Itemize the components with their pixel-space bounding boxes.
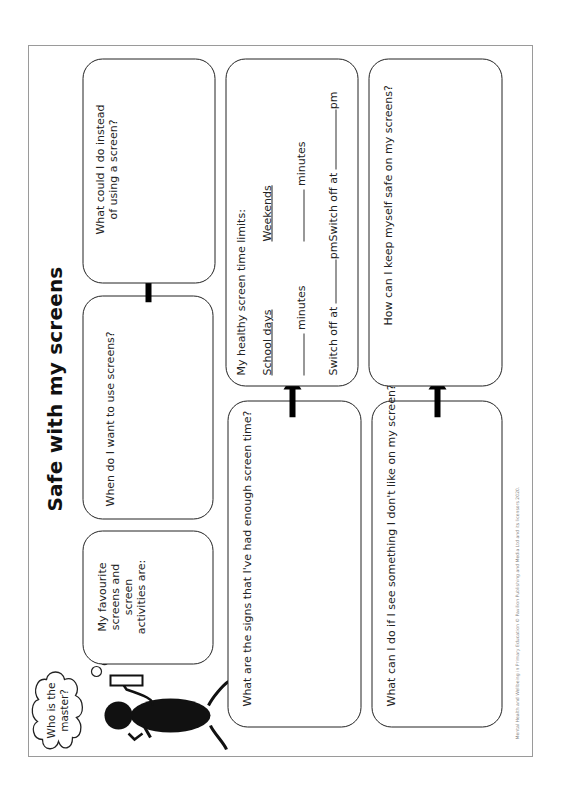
favourite-activities-box[interactable]: My favourite screens and screen activiti… bbox=[82, 530, 213, 664]
school-switch-off-label: Switch off at bbox=[326, 306, 339, 375]
school-switch-off-input[interactable] bbox=[335, 259, 336, 303]
school-minutes-label: minutes bbox=[294, 285, 307, 330]
signs-enough-box[interactable]: What are the signs that I've had enough … bbox=[227, 400, 361, 727]
thought-text-2: master? bbox=[57, 689, 69, 732]
instead-line-1: What could I do instead bbox=[93, 94, 106, 244]
see-something-question: What can I do if I see something I don't… bbox=[384, 384, 397, 706]
signs-question: What are the signs that I've had enough … bbox=[240, 410, 253, 706]
weekend-minutes-label: minutes bbox=[294, 141, 307, 186]
weekend-switch-off-input[interactable] bbox=[335, 109, 336, 169]
when-use-question: When do I want to use screens? bbox=[103, 331, 116, 506]
favourite-line-2: screens and screen bbox=[108, 544, 134, 649]
limits-heading: My healthy screen time limits: bbox=[234, 209, 247, 375]
weekend-minutes-input[interactable] bbox=[303, 189, 304, 241]
school-days-label: School days bbox=[260, 309, 273, 375]
keep-safe-question: How can I keep myself safe on my screens… bbox=[381, 85, 394, 325]
thought-text-1: Who is the bbox=[44, 682, 56, 738]
see-something-box[interactable]: What can I do if I see something I don't… bbox=[371, 400, 502, 727]
page-title: Safe with my screens bbox=[42, 266, 66, 511]
screen-time-limits-box[interactable]: My healthy screen time limits: School da… bbox=[225, 58, 358, 386]
instead-line-2: of using a screen? bbox=[106, 94, 119, 244]
when-use-screens-box[interactable]: When do I want to use screens? bbox=[82, 295, 213, 519]
weekends-label: Weekends bbox=[260, 185, 273, 241]
weekend-pm-label: pm bbox=[326, 91, 339, 109]
keep-safe-box[interactable]: How can I keep myself safe on my screens… bbox=[368, 58, 502, 386]
instead-activities-box[interactable]: What could I do instead of using a scree… bbox=[82, 58, 215, 283]
favourite-line-1: My favourite bbox=[95, 544, 108, 649]
school-minutes-input[interactable] bbox=[303, 333, 304, 375]
weekend-switch-off-label: Switch off at bbox=[326, 172, 339, 241]
favourite-line-3: activities are: bbox=[134, 544, 147, 649]
copyright-footer: Mental Health and Wellbeing in Primary E… bbox=[514, 486, 519, 739]
worksheet-landscape: Safe with my screens Who is the master? … bbox=[28, 45, 533, 757]
school-pm-label: pm bbox=[326, 241, 339, 259]
thought-cloud-icon: Who is the master? bbox=[28, 665, 88, 755]
